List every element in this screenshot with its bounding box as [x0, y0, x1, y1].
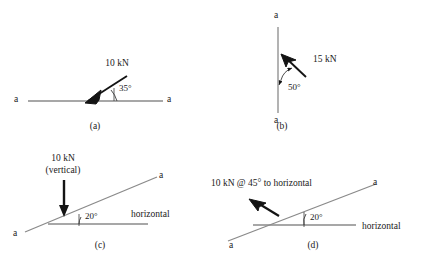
panel-a-force-label: 10 kN [105, 58, 129, 69]
panel-c-angle-label: 20° [85, 211, 98, 221]
panel-b-graphics [278, 27, 306, 113]
panel-a-graphics [28, 76, 163, 104]
panel-c-horizontal-reference-label: horizontal [131, 209, 170, 220]
panel-a-angle-label: 35° [119, 83, 132, 93]
panel-c-end-label-right: a [159, 170, 163, 181]
panel-d-arrowhead [249, 199, 266, 211]
panel-d-angle-label: 20° [310, 212, 323, 222]
panel-d-member-line [228, 184, 376, 241]
panel-d-horizontal-reference-label: horizontal [362, 221, 401, 232]
panel-d-end-label-left: a [229, 240, 233, 251]
panel-c-force-label-line2: (vertical) [46, 165, 81, 176]
panel-c-graphics [25, 177, 157, 232]
panel-b-force-label: 15 kN [313, 54, 337, 65]
panel-d-caption: (d) [307, 240, 318, 251]
panel-a-arrowhead [85, 90, 101, 104]
panel-c-arrowhead [59, 205, 69, 217]
panel-b-angle-label: 50° [288, 82, 301, 92]
panel-a-caption: (a) [90, 121, 101, 132]
diagram-vector-layer [0, 0, 421, 265]
panel-d-force-arrow [261, 205, 279, 216]
panel-b-caption: (b) [276, 121, 287, 132]
panel-c-caption: (c) [95, 240, 106, 251]
panel-d-force-label: 10 kN @ 45° to horizontal [211, 178, 312, 189]
panel-b-angle-arc [281, 68, 292, 80]
panel-a-end-label-right: a [167, 94, 171, 105]
figure-canvas: a a 10 kN 35° (a) a a 15 kN 50° (b) 10 k… [0, 0, 421, 265]
panel-b-end-label-top: a [274, 10, 278, 21]
panel-a-end-label-left: a [14, 94, 18, 105]
panel-b-angle-arc-tail [279, 80, 281, 85]
panel-c-force-label-line1: 10 kN [51, 153, 75, 164]
panel-d-end-label-right: a [373, 177, 377, 188]
panel-d-graphics [228, 184, 376, 241]
panel-c-end-label-left: a [13, 228, 17, 239]
